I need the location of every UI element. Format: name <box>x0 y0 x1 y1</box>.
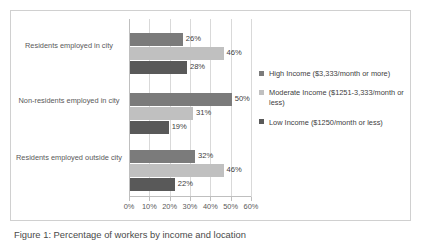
legend-item-low-income[interactable]: Low Income ($1250/month or less) <box>259 118 407 128</box>
category-label-2: Residents employed outside city <box>13 153 125 162</box>
legend-label-moderate-income: Moderate Income ($1251-3,333/month or le… <box>269 88 404 107</box>
bar-0-2[interactable] <box>130 61 187 74</box>
bar-row: 32% <box>130 150 251 163</box>
tick-label-2: 20% <box>162 202 177 211</box>
bar-row: 31% <box>130 107 251 120</box>
bar-value-label-1-1: 31% <box>196 108 211 117</box>
figure-caption: Figure 1: Percentage of workers by incom… <box>14 229 414 241</box>
bar-value-label-0-1: 46% <box>227 48 242 57</box>
bar-group-0: 26%46%28% <box>130 33 251 75</box>
tick-mark-2 <box>170 197 171 201</box>
bar-1-2[interactable] <box>130 121 169 134</box>
chart-screenshot: Residents employed in city Non-residents… <box>0 0 423 241</box>
legend-item-high-income[interactable]: High Income ($3,333/month or more) <box>259 69 407 79</box>
category-axis: Residents employed in city Non-residents… <box>11 11 129 197</box>
bar-row: 46% <box>130 164 251 177</box>
bar-value-label-2-2: 22% <box>178 179 193 188</box>
plot-area: 26%46%28%50%31%19%32%46%22% <box>129 19 251 197</box>
tick-label-3: 30% <box>183 202 198 211</box>
tick-mark-3 <box>190 197 191 201</box>
bar-0-0[interactable] <box>130 33 183 46</box>
bar-value-label-0-0: 26% <box>186 34 201 43</box>
tick-label-1: 10% <box>142 202 157 211</box>
chart-frame: Residents employed in city Non-residents… <box>10 10 411 221</box>
category-label-0: Residents employed in city <box>13 41 125 50</box>
bar-value-label-0-2: 28% <box>190 62 205 71</box>
bar-group-1: 50%31%19% <box>130 93 251 135</box>
legend-label-high-income: High Income ($3,333/month or more) <box>269 69 390 78</box>
legend-item-moderate-income[interactable]: Moderate Income ($1251-3,333/month or le… <box>259 88 407 108</box>
bar-row: 22% <box>130 178 251 191</box>
bar-value-label-1-2: 19% <box>172 122 187 131</box>
tick-label-4: 40% <box>203 202 218 211</box>
legend-label-low-income: Low Income ($1250/month or less) <box>269 118 383 127</box>
tick-mark-6 <box>251 197 252 201</box>
bar-value-label-1-0: 50% <box>235 94 250 103</box>
tick-label-6: 60% <box>244 202 259 211</box>
tick-mark-0 <box>129 197 130 201</box>
gridline-60 <box>251 19 252 197</box>
bar-row: 19% <box>130 121 251 134</box>
tick-mark-1 <box>149 197 150 201</box>
bar-row: 46% <box>130 47 251 60</box>
chart-legend: High Income ($3,333/month or more) Moder… <box>259 69 407 137</box>
legend-swatch-icon-high-income <box>259 71 264 76</box>
tick-mark-4 <box>210 197 211 201</box>
bar-row: 26% <box>130 33 251 46</box>
bar-1-1[interactable] <box>130 107 193 120</box>
bar-2-2[interactable] <box>130 178 175 191</box>
tick-label-0: 0% <box>124 202 135 211</box>
value-axis: 0%10%20%30%40%50%60% <box>129 197 251 217</box>
bar-1-0[interactable] <box>130 93 232 106</box>
legend-swatch-icon-low-income <box>259 119 264 124</box>
bar-group-2: 32%46%22% <box>130 150 251 192</box>
bar-0-1[interactable] <box>130 47 224 60</box>
bar-row: 28% <box>130 61 251 74</box>
tick-mark-5 <box>231 197 232 201</box>
legend-swatch-icon-moderate-income <box>259 90 264 95</box>
bar-value-label-2-1: 46% <box>227 165 242 174</box>
bar-value-label-2-0: 32% <box>198 151 213 160</box>
bar-2-1[interactable] <box>130 164 224 177</box>
bar-2-0[interactable] <box>130 150 195 163</box>
tick-label-5: 50% <box>223 202 238 211</box>
category-label-1: Non-residents employed in city <box>13 96 125 105</box>
bar-row: 50% <box>130 93 251 106</box>
